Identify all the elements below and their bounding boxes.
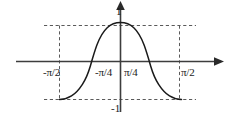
x-axis-arrowhead-icon <box>214 57 224 66</box>
x-tick-label-neg-pi-over-4: -π/4 <box>95 67 112 78</box>
y-value-label-one: 1 <box>116 6 122 17</box>
figure-canvas: -π/2 -π/4 π/4 π/2 1 -1 <box>0 0 234 124</box>
x-tick-label-neg-pi-over-2: -π/2 <box>43 67 60 78</box>
y-value-label-negative-one: -1 <box>111 103 120 114</box>
x-tick-label-pi-over-4: π/4 <box>124 67 138 78</box>
x-tick-label-pi-over-2: π/2 <box>181 67 195 78</box>
